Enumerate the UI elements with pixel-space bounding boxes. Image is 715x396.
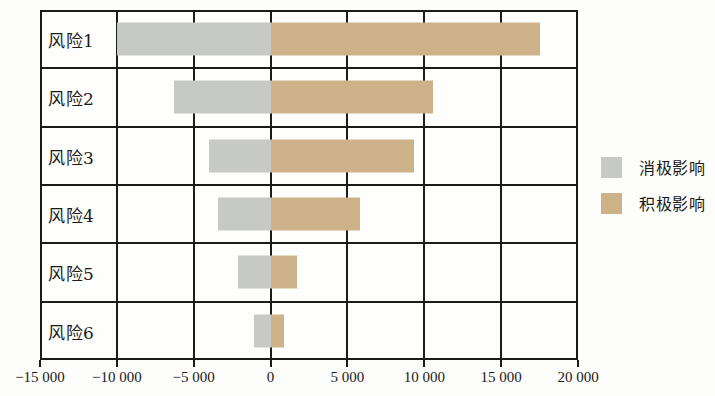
x-axis-tick [116, 360, 118, 367]
x-axis-tick-label: 20 000 [557, 369, 598, 386]
category-label: 风险4 [48, 202, 94, 227]
x-axis-tick-label: −10 000 [92, 369, 142, 386]
x-axis-tick [346, 360, 348, 367]
bar-negative [209, 139, 270, 172]
legend-label: 消极影响 [639, 155, 705, 179]
x-axis-tick-label: −15 000 [15, 369, 65, 386]
x-axis-tick [423, 360, 425, 367]
bar-positive [271, 198, 360, 231]
bar-negative [254, 314, 270, 347]
bar-positive [271, 314, 285, 347]
bar-positive [271, 256, 297, 289]
chart-row: 风险4 [40, 185, 578, 243]
bar-negative [218, 198, 270, 231]
bar-negative [174, 81, 271, 114]
x-axis-tick-label: −5 000 [173, 369, 215, 386]
x-axis-tick [500, 360, 502, 367]
category-label: 风险2 [48, 85, 94, 110]
chart-row: 风险1 [40, 10, 578, 68]
category-label: 风险1 [48, 27, 94, 52]
chart-plot-area: 风险1风险2风险3风险4风险5风险6 [40, 10, 578, 360]
x-axis-tick-label: 0 [267, 369, 275, 386]
x-axis-tick-label: 5 000 [331, 369, 365, 386]
x-axis-tick [39, 360, 41, 367]
x-axis-tick [193, 360, 195, 367]
legend-item[interactable]: 消极影响 [601, 150, 713, 184]
x-axis-tick-label: 10 000 [404, 369, 445, 386]
chart-row: 风险5 [40, 243, 578, 301]
legend-swatch-icon [601, 157, 622, 178]
legend-swatch-icon [601, 193, 622, 214]
chart-row: 风险6 [40, 302, 578, 360]
x-axis-tick [270, 360, 272, 367]
bar-negative [117, 23, 271, 56]
x-axis: −15 000−10 000−5 00005 00010 00015 00020… [40, 360, 578, 394]
bar-positive [271, 23, 540, 56]
x-axis-tick-label: 15 000 [481, 369, 522, 386]
chart-row: 风险2 [40, 68, 578, 126]
chart-legend: 消极影响积极影响 [601, 150, 713, 222]
legend-item[interactable]: 积极影响 [601, 186, 713, 220]
category-label: 风险6 [48, 318, 94, 343]
chart-row: 风险3 [40, 127, 578, 185]
bar-positive [271, 81, 434, 114]
bar-positive [271, 139, 414, 172]
legend-label: 积极影响 [639, 191, 705, 215]
category-label: 风险5 [48, 260, 94, 285]
bar-negative [238, 256, 270, 289]
category-label: 风险3 [48, 143, 94, 168]
x-axis-tick [577, 360, 579, 367]
